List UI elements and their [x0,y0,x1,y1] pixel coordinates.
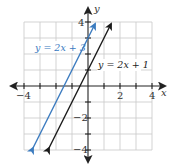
x-tick-label-neg4: −4 [16,90,31,101]
x-tick-label-2: 2 [117,90,123,101]
y-tick-label-neg2: −2 [73,112,88,123]
equation-label-blue: y = 2x + 3 [34,42,86,53]
y-axis-label: y [93,3,100,14]
y-tick-label-neg4: −4 [73,144,88,155]
x-axis-label: x [161,87,167,98]
y-tick-label-4: 4 [78,17,84,28]
equation-label-black: y = 2x + 1 [97,59,149,70]
x-tick-label-4: 4 [149,90,155,101]
coordinate-plane: −4 2 4 4 −2 −4 x y y = 2x + 3 y = 2x + 1 [0,0,170,166]
axes [11,8,165,162]
